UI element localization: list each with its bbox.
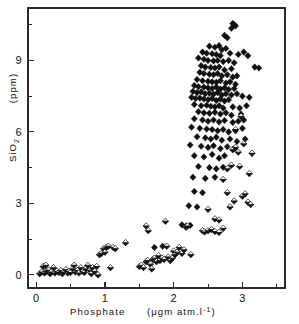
data-point-solid: [190, 174, 196, 181]
data-point-solid: [206, 43, 212, 50]
data-point-half-top: [122, 239, 128, 242]
data-point-half-bottom: [162, 221, 168, 224]
data-point-solid: [221, 117, 227, 124]
scatter-plot: 0123 0369 Phosphate (μgm atm.l-1) SiO2 (…: [0, 0, 299, 324]
data-point-half-top: [228, 162, 234, 165]
data-point-solid: [199, 117, 205, 124]
y-axis-unit-label: (ppm): [7, 73, 18, 103]
data-point-solid: [201, 110, 207, 117]
x-axis-unit-label: (μgm atm.l-1): [147, 306, 216, 318]
data-point-solid: [208, 136, 214, 143]
data-point-half-bottom: [164, 246, 170, 249]
data-point-solid: [209, 151, 215, 158]
y-axis-title: SiO2: [7, 138, 20, 162]
data-point-half-top: [249, 150, 255, 153]
data-point-solid: [220, 126, 226, 133]
data-point-solid: [226, 57, 232, 64]
data-point-solid: [230, 119, 236, 126]
data-point-solid: [194, 76, 200, 83]
data-point-solid: [210, 117, 216, 124]
data-point-solid: [198, 102, 204, 109]
data-point-solid: [205, 144, 211, 151]
data-point-solid: [194, 204, 200, 211]
data-point-half-top: [155, 253, 161, 256]
data-point-half-bottom: [149, 269, 155, 272]
data-point-half-top: [242, 191, 248, 194]
data-point-solid: [212, 174, 218, 181]
data-point-solid: [194, 133, 200, 140]
data-point-half-top: [188, 251, 194, 254]
series-solid-diamond: [151, 20, 262, 251]
data-point-solid: [221, 152, 227, 159]
data-point-half-top: [205, 206, 211, 209]
data-point-solid: [195, 108, 201, 115]
data-point-half-top: [220, 225, 226, 228]
data-points: [37, 20, 262, 278]
figure-container: 0123 0369 Phosphate (μgm atm.l-1) SiO2 (…: [0, 0, 299, 324]
data-point-solid: [239, 93, 245, 100]
data-point-half-top: [232, 126, 238, 129]
data-point-half-top: [164, 243, 170, 246]
data-point-half-top: [78, 264, 84, 267]
data-point-solid: [234, 138, 240, 145]
data-point-half-top: [85, 262, 91, 265]
data-point-half-bottom: [216, 232, 222, 235]
data-point-half-top: [224, 189, 230, 192]
data-point-half-bottom: [179, 253, 185, 256]
data-point-solid: [191, 152, 197, 159]
plot-frame: [28, 8, 285, 288]
data-point-solid: [220, 58, 226, 65]
data-point-solid: [228, 65, 234, 72]
data-point-solid: [186, 202, 192, 209]
data-point-half-top: [50, 264, 56, 267]
data-point-solid: [230, 104, 236, 111]
x-axis-ticks: [36, 282, 277, 288]
x-tick-label: 1: [102, 292, 108, 304]
data-point-half-bottom: [235, 152, 241, 155]
data-point-solid: [187, 142, 193, 149]
y-tick-label: 0: [16, 269, 22, 281]
data-point-solid: [197, 125, 203, 132]
data-point-solid: [243, 102, 249, 109]
data-point-half-top: [237, 163, 243, 166]
data-point-half-bottom: [231, 201, 237, 204]
y-axis-unit: (ppm): [7, 73, 18, 103]
x-tick-label: 0: [33, 292, 39, 304]
data-point-solid: [216, 119, 222, 126]
data-point-half-bottom: [216, 220, 222, 223]
data-point-solid: [213, 134, 219, 141]
x-axis-title-label: Phosphate: [70, 306, 125, 317]
data-point-solid: [226, 129, 232, 136]
y-axis-title-label: SiO2: [7, 138, 20, 162]
data-point-solid: [212, 109, 218, 116]
data-point-solid: [237, 105, 243, 112]
data-point-half-bottom: [249, 153, 255, 156]
data-point-solid: [195, 163, 201, 170]
data-point-solid: [188, 124, 194, 131]
x-axis-title: Phosphate (μgm atm.l-1): [70, 306, 216, 318]
data-point-solid: [191, 101, 197, 108]
data-point-solid: [217, 111, 223, 118]
x-tick-label: 3: [239, 292, 245, 304]
x-tick-label: 2: [170, 292, 176, 304]
data-point-solid: [246, 94, 252, 101]
data-point-solid: [151, 244, 157, 251]
data-point-solid: [227, 136, 233, 143]
y-tick-label: 9: [16, 54, 22, 66]
y-tick-label: 3: [16, 197, 22, 209]
data-point-solid: [195, 55, 201, 62]
data-point-half-top: [231, 198, 237, 201]
data-point-solid: [204, 126, 210, 133]
data-point-solid: [227, 50, 233, 57]
data-point-solid: [206, 110, 212, 117]
data-point-half-bottom: [122, 243, 128, 246]
data-point-solid: [235, 51, 241, 58]
data-point-half-top: [220, 176, 226, 179]
data-point-half-top: [176, 244, 182, 247]
data-point-half-bottom: [107, 268, 113, 271]
x-axis-tick-labels: 0123: [33, 292, 246, 304]
data-point-half-bottom: [220, 180, 226, 183]
data-point-solid: [202, 135, 208, 142]
data-point-half-top: [143, 223, 149, 226]
data-point-half-bottom: [205, 209, 211, 212]
